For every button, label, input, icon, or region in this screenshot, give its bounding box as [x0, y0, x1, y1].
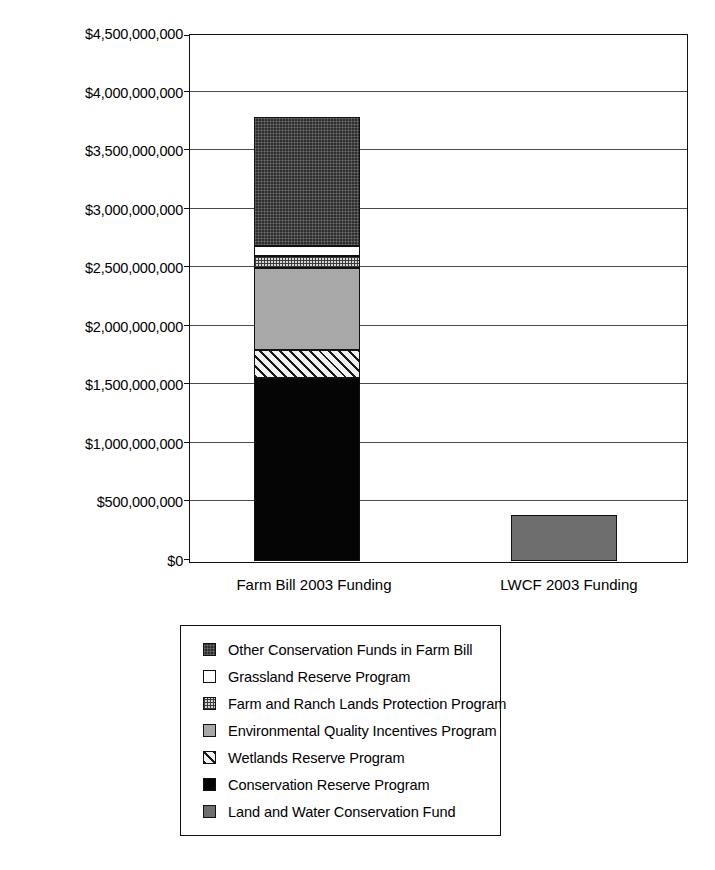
legend-swatch-icon: [203, 805, 216, 818]
chart-legend: Other Conservation Funds in Farm Bill Gr…: [180, 625, 501, 836]
bar-segment-grassland-reserve-program[interactable]: [254, 246, 360, 256]
legend-item-label: Land and Water Conservation Fund: [228, 804, 455, 820]
legend-swatch-icon: [203, 751, 216, 764]
y-axis-tick: [184, 383, 190, 384]
gridline: [190, 91, 687, 92]
legend-swatch-icon: [203, 778, 216, 791]
legend-item-label: Wetlands Reserve Program: [228, 750, 405, 766]
bar-segment-environmental-quality-incentives-program[interactable]: [254, 268, 360, 350]
legend-swatch-icon: [203, 643, 216, 656]
bar-segment-farm-and-ranch-lands-protection-program[interactable]: [254, 256, 360, 268]
legend-item-grassland-reserve-program[interactable]: Grassland Reserve Program: [203, 663, 500, 690]
bar-lwcf-2003-funding[interactable]: [511, 515, 617, 561]
legend-item-label: Grassland Reserve Program: [228, 669, 410, 685]
legend-item-land-and-water-conservation-fund[interactable]: Land and Water Conservation Fund: [203, 798, 500, 825]
bar-segment-other-conservation-funds-in-farm-bill[interactable]: [254, 117, 360, 246]
y-axis-tick: [184, 91, 190, 92]
y-axis-tick: [184, 500, 190, 501]
legend-item-conservation-reserve-program[interactable]: Conservation Reserve Program: [203, 771, 500, 798]
y-axis-tick-label: $3,500,000,000: [85, 144, 183, 158]
y-axis-tick-label: $1,500,000,000: [85, 378, 183, 392]
bar-segment-conservation-reserve-program[interactable]: [254, 378, 360, 561]
y-axis-tick: [184, 149, 190, 150]
y-axis-tick-label: $2,500,000,000: [85, 261, 183, 275]
legend-item-farm-and-ranch-lands-protection-program[interactable]: Farm and Ranch Lands Protection Program: [203, 690, 500, 717]
y-axis-tick-label: $4,000,000,000: [85, 86, 183, 100]
y-axis-labels: $4,500,000,000 $4,000,000,000 $3,500,000…: [0, 0, 183, 870]
y-axis-tick-label: $1,000,000,000: [85, 437, 183, 451]
x-axis-category-label-farm-bill: Farm Bill 2003 Funding: [189, 576, 439, 593]
bar-farm-bill-2003-funding[interactable]: [254, 117, 360, 561]
bar-segment-wetlands-reserve-program[interactable]: [254, 350, 360, 378]
y-axis-tick: [184, 35, 190, 36]
y-axis-tick: [184, 325, 190, 326]
y-axis-tick-label: $0: [167, 554, 183, 568]
legend-item-wetlands-reserve-program[interactable]: Wetlands Reserve Program: [203, 744, 500, 771]
y-axis-tick-label: $4,500,000,000: [85, 27, 183, 41]
y-axis-tick: [184, 442, 190, 443]
y-axis-tick: [184, 559, 190, 560]
y-axis-tick-label: $3,000,000,000: [85, 203, 183, 217]
x-axis-category-label-lwcf: LWCF 2003 Funding: [449, 576, 689, 593]
legend-swatch-icon: [203, 724, 216, 737]
legend-item-label: Environmental Quality Incentives Program: [228, 723, 497, 739]
legend-swatch-icon: [203, 697, 216, 710]
legend-item-label: Farm and Ranch Lands Protection Program: [228, 696, 506, 712]
y-axis-tick-label: $500,000,000: [97, 495, 183, 509]
legend-item-environmental-quality-incentives-program[interactable]: Environmental Quality Incentives Program: [203, 717, 500, 744]
legend-item-label: Conservation Reserve Program: [228, 777, 430, 793]
y-axis-tick: [184, 266, 190, 267]
y-axis-tick-label: $2,000,000,000: [85, 320, 183, 334]
chart-figure: $4,500,000,000 $4,000,000,000 $3,500,000…: [0, 0, 715, 870]
plot-area: [189, 34, 688, 563]
bar-segment-land-and-water-conservation-fund[interactable]: [511, 515, 617, 561]
legend-item-other-conservation-funds[interactable]: Other Conservation Funds in Farm Bill: [203, 636, 500, 663]
legend-item-label: Other Conservation Funds in Farm Bill: [228, 642, 473, 658]
legend-swatch-icon: [203, 670, 216, 683]
y-axis-tick: [184, 208, 190, 209]
